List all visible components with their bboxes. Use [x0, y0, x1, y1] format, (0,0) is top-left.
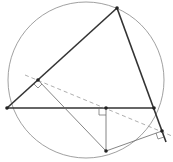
point-c — [152, 106, 156, 110]
side-ab — [7, 8, 117, 108]
simson-line-diagram — [0, 0, 173, 162]
point-p — [104, 149, 108, 153]
point-e — [104, 106, 108, 110]
perpendicular-pf — [106, 131, 162, 151]
point-d — [36, 78, 40, 82]
point-f — [160, 129, 164, 133]
simson-line — [25, 75, 172, 136]
perpendicular-pd — [38, 80, 106, 151]
circumcircle — [8, 2, 164, 158]
point-b — [5, 106, 9, 110]
point-a — [115, 6, 119, 10]
right-angle-mark-d — [34, 84, 42, 88]
side-ac-extended — [117, 8, 166, 142]
